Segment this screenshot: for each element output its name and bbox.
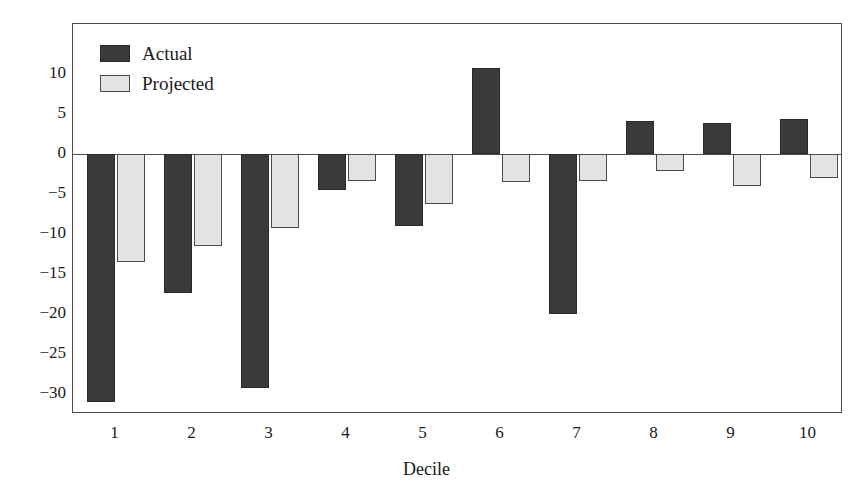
bar-projected-decile-7 — [579, 154, 607, 181]
y-tick-label: 0 — [58, 144, 67, 161]
x-tick-label: 3 — [239, 424, 299, 441]
y-tick-label: −25 — [39, 344, 66, 361]
legend-label: Projected — [142, 74, 214, 93]
y-tick-label: −30 — [39, 384, 66, 401]
y-tick-label: −10 — [39, 224, 66, 241]
bar-projected-decile-10 — [810, 154, 838, 178]
x-tick-label: 4 — [316, 424, 376, 441]
bar-actual-decile-2 — [164, 154, 192, 293]
x-axis-title: Decile — [0, 459, 853, 480]
bar-actual-decile-10 — [780, 119, 808, 154]
legend-item-projected: Projected — [100, 68, 250, 98]
y-tick-label: 10 — [49, 64, 66, 81]
bar-actual-decile-1 — [87, 154, 115, 402]
bar-actual-decile-6 — [472, 68, 500, 154]
bar-projected-decile-6 — [502, 154, 530, 182]
bar-projected-decile-3 — [271, 154, 299, 228]
x-tick-label: 6 — [470, 424, 530, 441]
bar-actual-decile-9 — [703, 123, 731, 154]
bar-projected-decile-9 — [733, 154, 761, 186]
legend-swatch-actual-icon — [100, 45, 130, 62]
y-tick-label: −5 — [48, 184, 66, 201]
bar-actual-decile-4 — [318, 154, 346, 190]
x-tick-label: 5 — [393, 424, 453, 441]
bar-actual-decile-8 — [626, 121, 654, 154]
bar-projected-decile-4 — [348, 154, 376, 181]
bar-actual-decile-5 — [395, 154, 423, 226]
bar-projected-decile-2 — [194, 154, 222, 246]
bar-projected-decile-8 — [656, 154, 684, 171]
y-tick-label: −15 — [39, 264, 66, 281]
bar-projected-decile-5 — [425, 154, 453, 204]
bar-actual-decile-3 — [241, 154, 269, 388]
bar-chart-figure: 1050−5−10−15−20−25−30 12345678910 Decile… — [0, 0, 853, 501]
x-tick-label: 10 — [778, 424, 838, 441]
y-tick-label: 5 — [58, 104, 67, 121]
bar-actual-decile-7 — [549, 154, 577, 314]
y-tick-label: −20 — [39, 304, 66, 321]
x-tick-label: 2 — [162, 424, 222, 441]
x-tick-label: 8 — [624, 424, 684, 441]
legend-item-actual: Actual — [100, 38, 250, 68]
bar-projected-decile-1 — [117, 154, 145, 262]
legend-swatch-projected-icon — [100, 75, 130, 92]
legend-label: Actual — [142, 44, 193, 63]
x-tick-label: 9 — [701, 424, 761, 441]
chart-legend: ActualProjected — [100, 38, 250, 98]
x-tick-label: 1 — [85, 424, 145, 441]
x-tick-label: 7 — [547, 424, 607, 441]
